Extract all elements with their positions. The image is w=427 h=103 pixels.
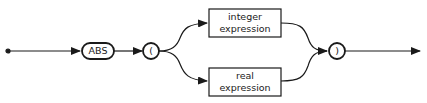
open-paren-label: ( (143, 45, 159, 57)
real-line1: real (209, 70, 281, 82)
abs-keyword-label: ABS (82, 45, 114, 57)
integer-expression-label: integer expression (209, 11, 281, 35)
integer-line2: expression (209, 23, 281, 35)
close-paren-label: ) (329, 45, 345, 57)
real-expression-label: real expression (209, 70, 281, 94)
integer-line1: integer (209, 11, 281, 23)
real-line2: expression (209, 82, 281, 94)
